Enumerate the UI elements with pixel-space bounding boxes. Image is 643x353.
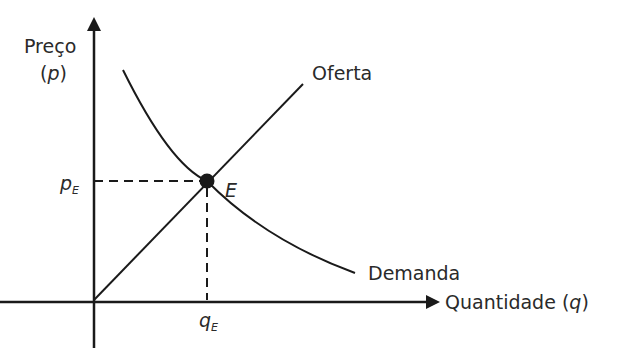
supply-demand-diagram: Preço (p) Quantidade (q) Oferta Demanda … xyxy=(0,0,643,353)
x-axis-label: Quantidade (q) xyxy=(445,291,589,313)
x-axis-arrow-icon xyxy=(426,295,440,309)
equilibrium-label: E xyxy=(225,179,237,201)
supply-label: Oferta xyxy=(312,62,372,84)
y-axis-label-preco: Preço xyxy=(24,35,76,57)
price-equilibrium-label: pE xyxy=(59,172,79,197)
demand-curve xyxy=(123,70,355,273)
equilibrium-point xyxy=(200,174,215,189)
y-axis-label-p: (p) xyxy=(40,62,67,84)
quantity-equilibrium-label: qE xyxy=(199,309,218,334)
demand-label: Demanda xyxy=(368,262,460,284)
supply-curve xyxy=(94,84,303,300)
y-axis-arrow-icon xyxy=(87,17,101,31)
